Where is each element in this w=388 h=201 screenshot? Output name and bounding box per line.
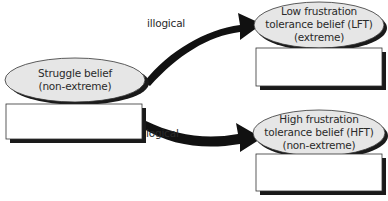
label-line: (non-extreme)	[254, 139, 384, 152]
empty-box-hft	[256, 154, 382, 191]
empty-box-struggle	[6, 104, 142, 139]
label-line: (non-extreme)	[10, 80, 140, 93]
label-line: High frustration	[254, 113, 384, 126]
edge-label-logical: logical	[146, 127, 179, 139]
label-line: Low frustration	[256, 5, 382, 18]
label-line: tolerance belief (HFT)	[254, 126, 384, 139]
label-line: tolerance belief (LFT)	[256, 18, 382, 31]
node-lft-label: Low frustration tolerance belief (LFT) (…	[256, 5, 382, 44]
node-struggle-label: Struggle belief (non-extreme)	[10, 67, 140, 93]
edge-label-illogical: illogical	[147, 17, 185, 29]
label-line: (extreme)	[256, 31, 382, 44]
node-hft-label: High frustration tolerance belief (HFT) …	[254, 113, 384, 152]
empty-box-lft	[256, 48, 382, 86]
label-line: Struggle belief	[10, 67, 140, 80]
